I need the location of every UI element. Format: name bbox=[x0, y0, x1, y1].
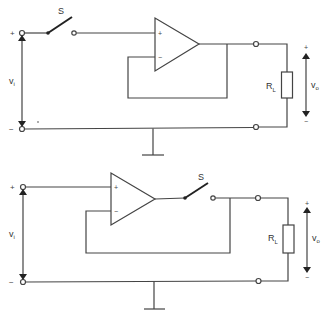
bottom-opamp-plus-pin: + bbox=[114, 184, 118, 191]
top-rl-label: RL bbox=[266, 81, 277, 93]
bottom-switch-contact-icon bbox=[211, 196, 215, 200]
top-input-minus-sign: − bbox=[9, 125, 14, 134]
bottom-output-minus-terminal bbox=[256, 279, 261, 284]
bottom-input-plus-sign: + bbox=[10, 183, 15, 192]
top-load-wire-upper bbox=[259, 44, 288, 72]
bottom-ground-rail bbox=[26, 281, 257, 282]
bottom-vi-label: vi bbox=[9, 229, 15, 240]
bottom-circuit: + − vi + − S RL + − vo bbox=[9, 172, 321, 309]
bottom-input-plus-terminal bbox=[21, 185, 26, 190]
top-vi-label: vi bbox=[9, 76, 15, 87]
bottom-input-minus-sign: − bbox=[9, 278, 14, 287]
bottom-opamp-output-wire bbox=[155, 198, 185, 199]
top-opamp-icon bbox=[155, 18, 199, 71]
top-vo-minus-sign: − bbox=[304, 118, 308, 125]
top-switch-label: S bbox=[58, 6, 64, 16]
circuit-diagram: + − vi S + − RL + bbox=[0, 0, 326, 318]
top-input-plus-sign: + bbox=[10, 29, 15, 38]
top-load-resistor-icon bbox=[282, 72, 293, 98]
bottom-load-wire-upper bbox=[261, 198, 289, 225]
bottom-opamp-icon bbox=[111, 173, 155, 225]
bottom-output-plus-terminal bbox=[256, 196, 261, 201]
top-ground-rail bbox=[25, 128, 254, 130]
bottom-load-resistor-icon bbox=[283, 225, 294, 253]
bottom-load-wire-lower bbox=[261, 253, 288, 281]
bottom-input-minus-terminal bbox=[21, 280, 26, 285]
top-output-minus-terminal bbox=[254, 125, 259, 130]
top-vo-label: vo bbox=[311, 80, 320, 91]
bottom-switch-label: S bbox=[198, 172, 204, 182]
top-switch-blade-icon[interactable] bbox=[48, 17, 72, 33]
bottom-switch-blade-icon[interactable] bbox=[185, 183, 208, 198]
top-opamp-minus-pin: − bbox=[158, 54, 162, 61]
top-vo-plus-sign: + bbox=[304, 44, 308, 51]
top-opamp-plus-pin: + bbox=[158, 30, 162, 37]
top-load-wire-lower bbox=[259, 98, 288, 127]
top-switch-contact-icon bbox=[72, 31, 76, 35]
bottom-rl-label: RL bbox=[268, 233, 279, 245]
bottom-vo-minus-sign: − bbox=[305, 274, 309, 281]
top-output-plus-terminal bbox=[254, 42, 259, 47]
bottom-vo-label: vo bbox=[312, 233, 321, 244]
top-stray-mark bbox=[37, 121, 39, 123]
bottom-opamp-minus-pin: − bbox=[114, 208, 118, 215]
bottom-vo-plus-sign: + bbox=[305, 200, 309, 207]
bottom-feedback-wire bbox=[86, 198, 230, 253]
top-circuit: + − vi S + − RL + bbox=[9, 6, 320, 155]
top-input-minus-terminal bbox=[20, 127, 25, 132]
top-feedback-wire bbox=[128, 44, 227, 98]
top-input-plus-terminal bbox=[20, 31, 25, 36]
